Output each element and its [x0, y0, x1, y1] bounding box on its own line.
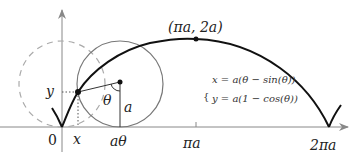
brace: {: [203, 91, 209, 102]
label-theta: θ: [103, 92, 112, 108]
label-a-theta: aθ: [110, 133, 127, 149]
diagram-canvas: 0 x y aθ πa 2πa θ a (πa, 2a) { x = a(θ −…: [0, 0, 364, 166]
equation-x: x = a(θ − sin(θ)): [212, 74, 296, 85]
cycloid-right-branch: [329, 105, 341, 127]
circle-center: [118, 80, 123, 85]
label-two-pi-a: 2πa: [309, 137, 336, 153]
label-radius-a: a: [124, 99, 132, 115]
theta-arc: [111, 84, 120, 91]
cycloid-left-branch: [52, 108, 62, 127]
point-on-curve: [75, 89, 81, 95]
label-pi-a: πa: [182, 135, 201, 151]
label-y: y: [45, 83, 55, 99]
cycloid-diagram: 0 x y aθ πa 2πa θ a (πa, 2a) { x = a(θ −…: [0, 0, 364, 166]
label-apex: (πa, 2a): [168, 19, 223, 35]
label-x: x: [73, 131, 81, 147]
label-origin: 0: [48, 132, 57, 148]
apex-point: [194, 37, 199, 42]
equation-y: y = a(1 − cos(θ)): [211, 93, 298, 104]
